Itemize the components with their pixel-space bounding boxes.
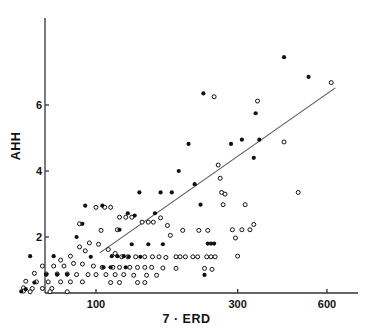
- data-point-open: [146, 220, 150, 224]
- data-point-open: [230, 228, 234, 232]
- data-point-open: [155, 273, 159, 277]
- data-point-filled: [126, 211, 130, 215]
- data-point-filled: [229, 142, 233, 146]
- data-point-filled: [109, 265, 113, 269]
- data-point-open: [68, 254, 72, 258]
- data-point-open: [104, 273, 108, 277]
- data-point-open: [221, 203, 225, 207]
- data-point-filled: [201, 91, 205, 95]
- data-point-filled: [193, 182, 197, 186]
- x-axis-title: 7 · ERD: [163, 312, 211, 326]
- data-point-open: [118, 265, 122, 269]
- data-point-filled: [28, 254, 32, 258]
- data-point-filled: [101, 265, 105, 269]
- data-point-open: [94, 205, 98, 209]
- data-point-open: [145, 273, 149, 277]
- data-point-open: [80, 280, 84, 284]
- data-point-open: [28, 290, 32, 294]
- data-point-open: [151, 255, 155, 259]
- data-point-filled: [306, 75, 310, 79]
- x-tick-label: 300: [228, 298, 246, 310]
- regression-line-segment: [100, 88, 336, 253]
- data-point-filled: [198, 203, 202, 207]
- data-point-open: [78, 245, 82, 249]
- data-point-filled: [170, 190, 174, 194]
- plot-area: [0, 0, 370, 333]
- data-point-open: [212, 95, 216, 99]
- data-point-filled: [202, 273, 206, 277]
- data-point-filled: [117, 228, 121, 232]
- data-point-open: [206, 228, 210, 232]
- data-point-open: [87, 241, 91, 245]
- data-point-filled: [177, 169, 181, 173]
- axis-lines: [45, 18, 358, 293]
- data-point-open: [62, 264, 66, 268]
- data-point-open: [40, 286, 44, 290]
- data-point-filled: [282, 55, 286, 59]
- data-point-filled: [80, 222, 84, 226]
- data-point-filled: [146, 242, 150, 246]
- data-point-open: [80, 262, 84, 266]
- data-point-open: [202, 266, 206, 270]
- data-point-open: [75, 273, 79, 277]
- y-tick-label: 2: [28, 231, 42, 243]
- data-point-filled: [212, 242, 216, 246]
- data-point-open: [24, 279, 28, 283]
- data-point-open: [157, 255, 161, 259]
- data-point-open: [181, 228, 185, 232]
- open-circle-markers: [22, 81, 334, 294]
- data-point-open: [143, 265, 147, 269]
- data-point-filled: [115, 254, 119, 258]
- data-point-filled: [127, 255, 131, 259]
- data-point-open: [68, 280, 72, 284]
- data-point-open: [128, 265, 132, 269]
- data-point-open: [140, 220, 144, 224]
- scatter-chart-figure: 100300600 246 7 · ERD AHH: [0, 0, 370, 333]
- data-point-filled: [110, 254, 114, 258]
- data-point-filled: [153, 211, 157, 215]
- data-point-open: [159, 216, 163, 220]
- data-point-open: [150, 265, 154, 269]
- data-point-open: [40, 264, 44, 268]
- data-point-open: [94, 273, 98, 277]
- data-point-filled: [55, 273, 59, 277]
- data-point-open: [223, 192, 227, 196]
- data-point-filled: [100, 204, 104, 208]
- data-point-open: [136, 265, 140, 269]
- data-point-open: [218, 176, 222, 180]
- regression-line: [100, 88, 336, 253]
- data-point-open: [248, 228, 252, 232]
- data-point-open: [99, 228, 103, 232]
- data-point-open: [106, 248, 110, 252]
- data-point-open: [197, 228, 201, 232]
- y-axis-title: AHH: [9, 131, 23, 160]
- data-point-open: [134, 255, 138, 259]
- data-point-open: [65, 290, 69, 294]
- data-point-filled: [257, 138, 261, 142]
- data-point-open: [240, 228, 244, 232]
- data-point-filled: [32, 280, 36, 284]
- data-point-open: [48, 290, 52, 294]
- data-point-filled: [24, 287, 28, 291]
- data-point-open: [183, 255, 187, 259]
- data-point-filled: [122, 254, 126, 258]
- data-point-open: [109, 281, 113, 285]
- data-point-filled: [83, 204, 87, 208]
- data-point-filled: [65, 273, 69, 277]
- data-point-open: [118, 281, 122, 285]
- data-point-filled: [133, 213, 137, 217]
- data-point-open: [191, 255, 195, 259]
- data-point-filled: [186, 142, 190, 146]
- data-point-filled: [240, 138, 244, 142]
- data-point-open: [143, 255, 147, 259]
- data-point-filled: [44, 273, 48, 277]
- data-point-open: [164, 255, 168, 259]
- data-point-open: [329, 81, 333, 85]
- data-point-open: [124, 215, 128, 219]
- data-point-open: [296, 190, 300, 194]
- data-point-filled: [254, 111, 258, 115]
- data-point-open: [132, 273, 136, 277]
- data-point-open: [210, 267, 214, 271]
- data-point-open: [113, 273, 117, 277]
- data-point-open: [209, 255, 213, 259]
